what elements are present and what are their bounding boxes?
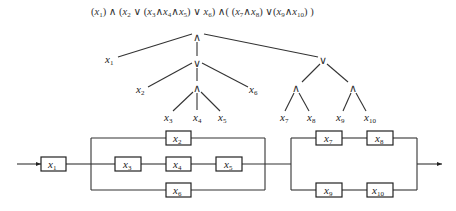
- leaf-x2: x2: [135, 83, 145, 97]
- box-x5: x5: [216, 157, 242, 172]
- boolean-formula: (x1) ∧ (x2 ∨ (x3∧x4∧x5) ∨ x6) ∧( (x7∧x8)…: [91, 6, 314, 19]
- box-x6: x6: [166, 183, 191, 198]
- leaf-x10: x10: [363, 111, 376, 125]
- or-node-right: ∨: [319, 54, 327, 67]
- or-node-left: ∨: [193, 57, 201, 70]
- leaf-x8: x8: [306, 111, 316, 125]
- leaf-x9: x9: [335, 111, 345, 125]
- tree-leaves: x1 x2 x6 x3 x4 x5 x7 x8 x9 x10: [104, 53, 376, 125]
- box-x1: x1: [41, 157, 66, 172]
- and-node-middle: ∧: [193, 82, 201, 95]
- box-x7: x7: [316, 131, 342, 146]
- leaf-x5: x5: [217, 111, 227, 125]
- leaf-x3: x3: [163, 111, 173, 125]
- leaf-x4: x4: [192, 111, 202, 125]
- and-node-x9x10: ∧: [349, 82, 357, 95]
- box-x8: x8: [367, 131, 393, 146]
- box-x3: x3: [115, 157, 141, 172]
- box-x9: x9: [316, 183, 342, 198]
- and-node-root: ∧: [193, 31, 201, 44]
- tree-edges: [118, 34, 366, 111]
- leaf-x6: x6: [248, 83, 258, 97]
- tree-operators: ∧ ∨ ∧ ∨ ∧ ∧: [193, 31, 357, 95]
- box-x10: x10: [367, 183, 393, 198]
- and-node-x7x8: ∧: [292, 82, 300, 95]
- logic-diagram: (x1) ∧ (x2 ∨ (x3∧x4∧x5) ∨ x6) ∧( (x7∧x8)…: [0, 0, 456, 211]
- box-x4: x4: [166, 157, 191, 172]
- leaf-x1: x1: [104, 53, 114, 67]
- leaf-x7: x7: [279, 111, 289, 125]
- box-x2: x2: [166, 131, 191, 146]
